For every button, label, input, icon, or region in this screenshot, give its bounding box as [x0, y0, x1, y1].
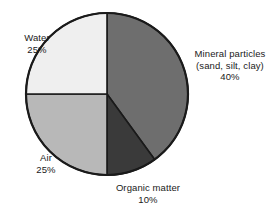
- slice-label-water-value: 25%: [10, 44, 64, 56]
- slice-label-water-name: Water: [10, 32, 64, 44]
- slice-label-organic-matter: Organic matter 10%: [100, 182, 196, 205]
- slice-label-organic-name: Organic matter: [100, 182, 196, 194]
- slice-label-mineral-detail: (sand, silt, clay): [190, 60, 270, 72]
- slice-label-mineral-name: Mineral particles: [190, 48, 270, 60]
- slice-label-air-name: Air: [24, 152, 68, 164]
- slice-label-air-value: 25%: [24, 164, 68, 176]
- slice-label-organic-value: 10%: [100, 194, 196, 206]
- slice-label-mineral-value: 40%: [190, 71, 270, 83]
- slice-label-air: Air 25%: [24, 152, 68, 175]
- slice-label-water: Water 25%: [10, 32, 64, 55]
- pie-chart-figure: Water 25% Mineral particles (sand, silt,…: [0, 0, 272, 214]
- slice-label-mineral-particles: Mineral particles (sand, silt, clay) 40%: [190, 48, 270, 83]
